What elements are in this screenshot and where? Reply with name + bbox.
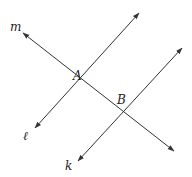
label-point-a: A bbox=[72, 69, 82, 83]
line-l bbox=[35, 13, 139, 128]
label-k: k bbox=[65, 159, 72, 173]
label-point-b: B bbox=[116, 93, 126, 107]
label-l: ℓ bbox=[23, 129, 28, 143]
line-m bbox=[23, 33, 174, 151]
line-k bbox=[78, 48, 182, 161]
diagram-canvas: m ℓ k A B bbox=[0, 0, 192, 177]
label-m: m bbox=[10, 20, 21, 34]
